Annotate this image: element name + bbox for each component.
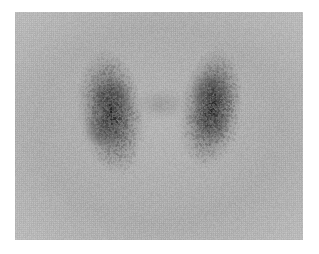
scintigram-figure: Anterior thyroid scintigram showing two … xyxy=(0,0,319,254)
thyroid-uptake-heatmap xyxy=(15,12,303,240)
scan-image-plate xyxy=(15,12,303,240)
